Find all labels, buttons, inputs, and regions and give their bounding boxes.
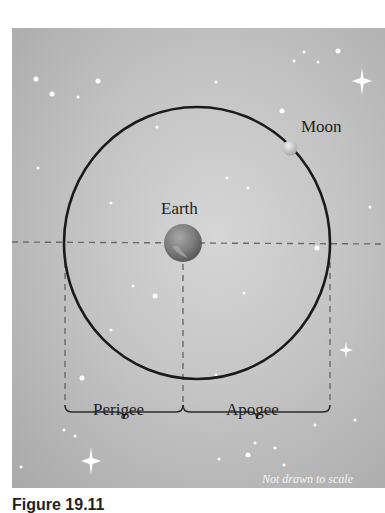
star-icon	[215, 374, 218, 377]
figure-caption: Figure 19.11	[12, 497, 105, 513]
star-icon	[246, 453, 251, 458]
star-icon	[243, 292, 246, 295]
star-icon	[77, 96, 80, 99]
star-icon	[280, 109, 285, 114]
star-icon	[110, 202, 113, 205]
earth-label: Earth	[161, 200, 198, 217]
apogee-label: Apogee	[226, 401, 279, 418]
star-icon	[218, 458, 221, 461]
stars	[20, 49, 372, 469]
star-icon	[96, 79, 101, 84]
star-icon	[37, 167, 40, 170]
star-icon	[132, 285, 135, 288]
star-icon	[153, 294, 158, 299]
scale-note: Not drawn to scale	[262, 473, 353, 485]
star-icon	[303, 51, 306, 54]
star-icon	[315, 246, 320, 251]
perigee-label: Perigee	[93, 401, 144, 418]
moon-label: Moon	[301, 118, 342, 135]
star-icon	[314, 424, 317, 427]
star-icon	[34, 77, 39, 82]
star-icon	[110, 329, 113, 332]
star-icon	[369, 206, 372, 209]
star-icon	[283, 464, 286, 467]
star-icon	[293, 60, 296, 63]
star-icon	[63, 429, 66, 432]
star-icon	[226, 177, 229, 180]
star-icon	[354, 419, 357, 422]
star-icon	[254, 442, 257, 445]
star-icon	[317, 61, 320, 64]
star-icon	[274, 447, 277, 450]
star-icon	[215, 81, 218, 84]
star-icon	[50, 92, 55, 97]
star-icon	[247, 187, 250, 190]
star-icon	[74, 435, 77, 438]
star-icon	[156, 126, 159, 129]
earth-icon	[164, 224, 202, 262]
moon-icon	[283, 141, 298, 156]
star-icon	[20, 466, 23, 469]
star-icon	[80, 376, 85, 381]
star-icon	[336, 49, 341, 54]
